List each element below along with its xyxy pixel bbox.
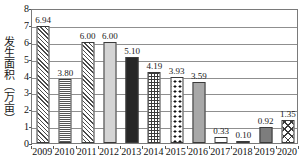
bar-value-label: 1.35: [280, 110, 296, 119]
bar-value-label: 3.93: [169, 67, 185, 76]
bar-slot: 6.94: [32, 10, 54, 143]
x-tick-label-2009: 2009: [32, 146, 52, 158]
y-tick-label: 2: [15, 105, 29, 115]
bar-2013[interactable]: [126, 57, 139, 143]
y-tick-label: 8: [15, 4, 29, 14]
x-tick-label-2012: 2012: [99, 146, 119, 158]
bar-value-label: 6.94: [35, 16, 51, 25]
x-tick-label-2011: 2011: [77, 146, 97, 158]
bar-slot: 3.59: [188, 10, 210, 143]
bar-value-label: 0.92: [258, 117, 274, 126]
x-axis-tick-labels: 2009201020112012201320142015201620172018…: [31, 146, 298, 162]
bar-value-label: 0.33: [213, 127, 229, 136]
plot-area: 6.943.806.006.005.104.193.933.590.330.10…: [31, 9, 298, 144]
bar-slot: 4.19: [143, 10, 165, 143]
bar-value-label: 5.10: [124, 47, 140, 56]
bar-2018[interactable]: [237, 141, 250, 143]
bar-2020[interactable]: [281, 120, 294, 143]
x-tick-label-2017: 2017: [210, 146, 230, 158]
bar-chart: 发生面积（万亩） 012345678 6.943.806.006.005.104…: [0, 0, 302, 167]
bar-2011[interactable]: [81, 42, 94, 143]
x-tick-label-2019: 2019: [255, 146, 275, 158]
bar-value-label: 3.59: [191, 72, 207, 81]
y-tick-mark: [29, 144, 32, 145]
bar-slot: 6.00: [99, 10, 121, 143]
x-tick-label-2016: 2016: [188, 146, 208, 158]
bar-2017[interactable]: [215, 137, 228, 143]
bar-slot: 0.92: [255, 10, 277, 143]
x-tick-mark: [298, 146, 299, 149]
x-tick-label-2014: 2014: [143, 146, 163, 158]
bar-value-label: 6.00: [80, 32, 96, 41]
bar-value-label: 6.00: [102, 32, 118, 41]
x-tick-label-2018: 2018: [232, 146, 252, 158]
bar-2014[interactable]: [148, 72, 161, 143]
x-tick-label-2015: 2015: [166, 146, 186, 158]
bar-2009[interactable]: [37, 26, 50, 143]
bar-2015[interactable]: [170, 77, 183, 143]
y-tick-label: 3: [15, 88, 29, 98]
bar-value-label: 0.10: [236, 131, 252, 140]
x-tick-label-2020: 2020: [277, 146, 297, 158]
x-tick-label-2013: 2013: [121, 146, 141, 158]
bar-slot: 6.00: [77, 10, 99, 143]
bar-slot: 0.10: [232, 10, 254, 143]
y-tick-label: 1: [15, 122, 29, 132]
bar-slot: 3.80: [54, 10, 76, 143]
y-tick-label: 7: [15, 21, 29, 31]
bars-layer: 6.943.806.006.005.104.193.933.590.330.10…: [32, 10, 297, 143]
bar-slot: 3.93: [166, 10, 188, 143]
y-tick-label: 0: [15, 139, 29, 149]
bar-2012[interactable]: [103, 42, 116, 143]
y-tick-label: 5: [15, 55, 29, 65]
bar-value-label: 3.80: [58, 69, 74, 78]
bar-2010[interactable]: [59, 79, 72, 143]
y-tick-label: 6: [15, 38, 29, 48]
bar-slot: 0.33: [210, 10, 232, 143]
bar-value-label: 4.19: [147, 62, 163, 71]
bar-2019[interactable]: [259, 127, 272, 143]
bar-slot: 5.10: [121, 10, 143, 143]
y-axis-title: 发生面积（万亩）: [1, 14, 15, 146]
x-tick-label-2010: 2010: [54, 146, 74, 158]
bar-slot: 1.35: [277, 10, 299, 143]
y-axis-tick-labels: 012345678: [15, 0, 29, 167]
y-tick-label: 4: [15, 72, 29, 82]
bar-2016[interactable]: [192, 82, 205, 143]
